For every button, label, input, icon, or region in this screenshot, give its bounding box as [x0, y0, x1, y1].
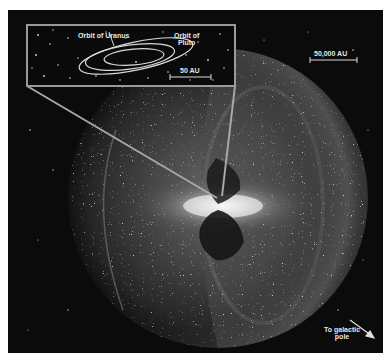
main-scale-bar	[310, 57, 357, 63]
label-main-scale: 50,000 AU	[314, 50, 347, 57]
label-orbit-pluto: Orbit of Pluto	[174, 32, 199, 46]
label-inset-scale: 50 AU	[180, 67, 200, 74]
label-orbit-pluto-line2: Pluto	[174, 39, 199, 46]
label-orbit-pluto-line1: Orbit of	[174, 32, 199, 39]
label-galactic-pole-line1: To galactic	[324, 326, 360, 333]
inset-panel	[27, 25, 235, 86]
oort-cloud-illustration	[8, 10, 383, 353]
label-galactic-pole: To galactic pole	[324, 326, 360, 340]
oort-cloud-figure: Orbit of Uranus Orbit of Pluto 50 AU 50,…	[8, 10, 383, 353]
label-galactic-pole-line2: pole	[324, 333, 360, 340]
label-orbit-uranus: Orbit of Uranus	[78, 32, 129, 39]
